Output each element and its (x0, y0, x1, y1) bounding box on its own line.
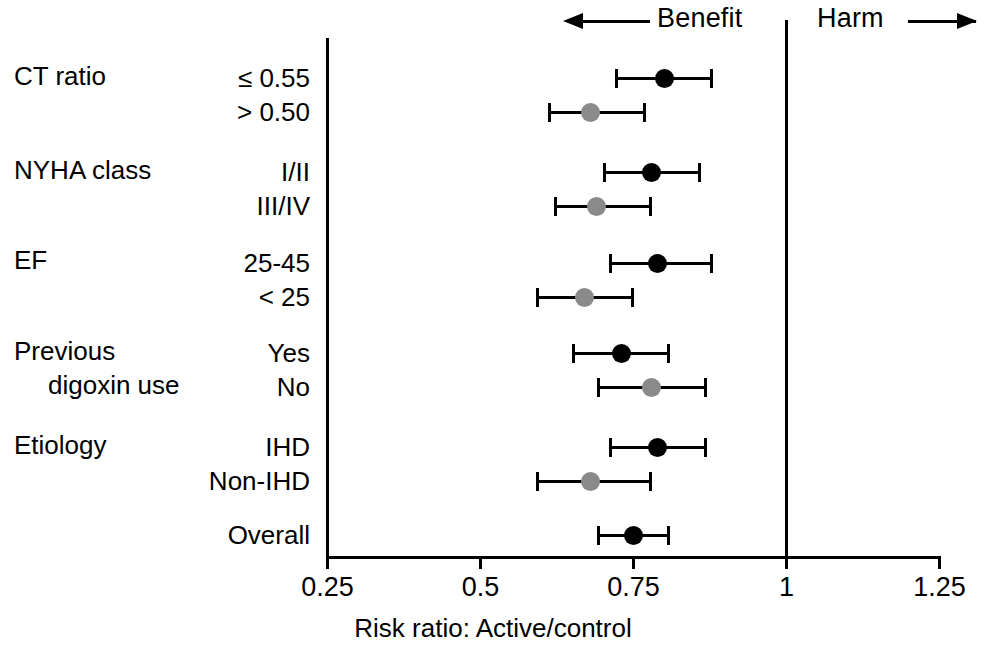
x-tick (326, 556, 329, 569)
point-estimate-marker (642, 163, 661, 182)
point-estimate-marker (581, 103, 600, 122)
point-estimate-marker (612, 344, 631, 363)
row-label: Yes (268, 339, 310, 367)
ci-upper-cap (643, 103, 646, 122)
benefit-label: Benefit (657, 3, 742, 33)
y-axis-line (326, 38, 329, 559)
x-tick (479, 556, 482, 569)
ci-upper-cap (667, 344, 670, 363)
ci-lower-cap (609, 438, 612, 457)
ci-upper-cap (649, 197, 652, 216)
benefit-harm-header: Benefit Harm (0, 0, 986, 40)
ci-lower-cap (597, 526, 600, 545)
x-tick-label: 0.75 (607, 572, 660, 602)
row-label: IHD (265, 433, 310, 461)
ci-upper-cap (667, 526, 670, 545)
row-label: ≤ 0.55 (238, 64, 310, 92)
point-estimate-marker (575, 288, 594, 307)
harm-arrow-icon (957, 13, 977, 29)
ci-upper-cap (704, 438, 707, 457)
ci-lower-cap (597, 378, 600, 397)
x-tick-label: 0.25 (301, 572, 354, 602)
point-estimate-marker (642, 378, 661, 397)
ci-upper-cap (710, 69, 713, 88)
ci-lower-cap (609, 254, 612, 273)
x-tick-label: 1.25 (913, 572, 966, 602)
ci-upper-cap (631, 288, 634, 307)
ci-upper-cap (710, 254, 713, 273)
group-label: NYHA class (14, 156, 151, 184)
point-estimate-marker (648, 438, 667, 457)
x-tick-label: 0.5 (462, 572, 500, 602)
point-estimate-marker (581, 472, 600, 491)
ci-lower-cap (536, 472, 539, 491)
ci-lower-cap (536, 288, 539, 307)
point-estimate-marker (587, 197, 606, 216)
row-label: III/IV (257, 192, 310, 220)
row-label: > 0.50 (237, 98, 310, 126)
null-reference-line (785, 20, 788, 557)
point-estimate-marker (648, 254, 667, 273)
forest-plot: Benefit Harm 0.250.50.7511.25 Risk ratio… (0, 0, 986, 655)
benefit-arrow-shaft (582, 20, 650, 23)
ci-lower-cap (554, 197, 557, 216)
ci-lower-cap (548, 103, 551, 122)
row-label: Non-IHD (209, 467, 310, 495)
point-estimate-marker (655, 69, 674, 88)
point-estimate-marker (624, 526, 643, 545)
group-label: Etiology (14, 431, 107, 459)
row-label: No (277, 373, 310, 401)
ci-upper-cap (704, 378, 707, 397)
x-tick (938, 556, 941, 569)
group-label: Previous (14, 337, 115, 365)
row-label: 25-45 (244, 249, 311, 277)
ci-lower-cap (615, 69, 618, 88)
group-label: CT ratio (14, 62, 106, 90)
ci-upper-cap (698, 163, 701, 182)
ci-lower-cap (603, 163, 606, 182)
group-label-line2: digoxin use (48, 371, 180, 399)
row-label: < 25 (259, 283, 310, 311)
x-tick-label: 1 (779, 572, 794, 602)
ci-upper-cap (649, 472, 652, 491)
x-axis-title: Risk ratio: Active/control (0, 613, 986, 643)
harm-label: Harm (817, 3, 884, 33)
group-label: EF (14, 246, 47, 274)
x-tick (632, 556, 635, 569)
row-label: Overall (228, 521, 310, 549)
benefit-arrow-icon (563, 13, 583, 29)
x-tick (785, 556, 788, 569)
row-label: I/II (281, 158, 310, 186)
ci-lower-cap (572, 344, 575, 363)
